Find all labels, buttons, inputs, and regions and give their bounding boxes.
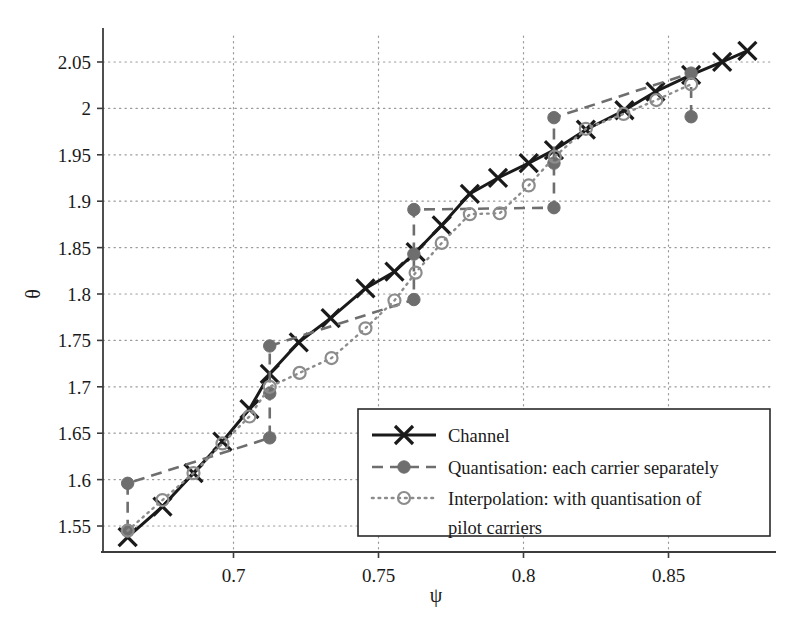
legend-label-interpolation-line2: pilot carriers [448, 518, 542, 538]
marker-filled-circle [121, 477, 133, 489]
y-tick-label: 1.85 [58, 238, 91, 259]
legend-label-interpolation: Interpolation: with quantisation of [448, 489, 702, 509]
x-tick-label: 0.8 [512, 565, 536, 586]
y-tick-label: 1.75 [58, 330, 91, 351]
y-tick-label: 1.8 [67, 284, 91, 305]
x-tick-label: 0.7 [222, 565, 246, 586]
marker-filled-circle [408, 293, 420, 305]
marker-filled-circle [685, 111, 697, 123]
y-tick-label: 2 [82, 98, 92, 119]
y-tick-label: 1.65 [58, 423, 91, 444]
y-axis-title: θ [22, 289, 44, 299]
plot-background [0, 0, 798, 635]
marker-filled-circle [408, 203, 420, 215]
y-tick-label: 1.6 [67, 470, 91, 491]
marker-filled-circle [548, 111, 560, 123]
x-axis-title: ψ [430, 584, 443, 607]
y-tick-label: 1.9 [67, 191, 91, 212]
chart-figure: 1.551.61.651.71.751.81.851.91.9522.050.7… [0, 0, 798, 635]
legend-label-quantisation: Quantisation: each carrier separately [448, 458, 719, 478]
marker-filled-circle [398, 461, 410, 473]
y-tick-label: 1.7 [67, 377, 91, 398]
marker-filled-circle [408, 248, 420, 260]
x-tick-label: 0.75 [362, 565, 395, 586]
marker-filled-circle [264, 432, 276, 444]
x-tick-label: 0.85 [652, 565, 685, 586]
y-tick-label: 1.95 [58, 145, 91, 166]
chart-canvas: 1.551.61.651.71.751.81.851.91.9522.050.7… [0, 0, 798, 635]
y-tick-label: 2.05 [58, 52, 91, 73]
marker-filled-circle [548, 201, 560, 213]
y-tick-label: 1.55 [58, 516, 91, 537]
chart-legend: ChannelQuantisation: each carrier separa… [358, 409, 770, 538]
legend-label-channel: Channel [448, 426, 510, 446]
marker-filled-circle [264, 340, 276, 352]
